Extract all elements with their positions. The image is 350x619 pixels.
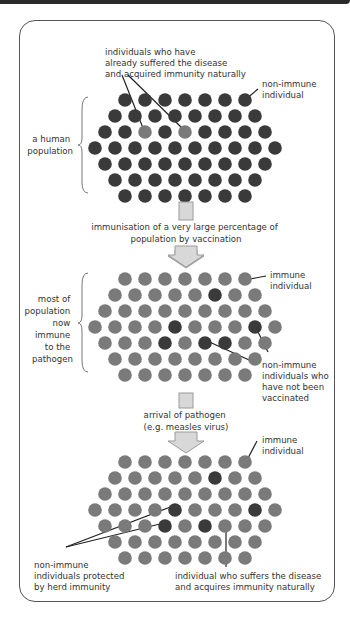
immune-individual-dot: [238, 304, 252, 318]
callout-immune: immune individual: [262, 435, 304, 456]
immune-individual-dot: [198, 455, 212, 469]
immune-individual-dot: [178, 272, 192, 286]
non-immune-individual-dot: [218, 125, 232, 139]
immune-individual-dot: [118, 519, 132, 533]
immune-individual-dot: [248, 352, 262, 366]
immune-individual-dot: [158, 487, 172, 501]
immune-individual-dot: [168, 288, 182, 302]
immune-individual-dot: [198, 551, 212, 565]
immune-individual-dot: [258, 304, 272, 318]
non-immune-individual-dot: [158, 189, 172, 203]
immune-individual-dot: [208, 352, 222, 366]
non-immune-individual-dot: [168, 173, 182, 187]
immune-individual-dot: [108, 503, 122, 517]
immune-individual-dot: [248, 288, 262, 302]
non-immune-individual-dot: [108, 173, 122, 187]
immune-individual-dot: [238, 455, 252, 469]
callout-suffers-disease: individual who suffers the disease and a…: [175, 571, 324, 592]
immune-individual-dot: [118, 272, 132, 286]
immune-individual-dot: [188, 288, 202, 302]
immune-individual-dot: [258, 336, 272, 350]
non-immune-individual-dot: [248, 109, 262, 123]
non-immune-individual-dot: [268, 141, 282, 155]
immune-individual-dot: [248, 535, 262, 549]
non-immune-individual-dot: [248, 320, 262, 334]
non-immune-individual-dot: [258, 157, 272, 171]
step-pathogen-text: arrival of pathogen (e.g. measles virus): [144, 410, 229, 432]
immune-individual-dot: [158, 368, 172, 382]
immune-individual-dot: [88, 503, 102, 517]
immune-individual-dot: [228, 503, 242, 517]
immune-individual-dot: [138, 125, 152, 139]
non-immune-individual-dot: [208, 471, 222, 485]
non-immune-individual-dot: [248, 141, 262, 155]
non-immune-individual-dot: [138, 157, 152, 171]
population-dots: [88, 455, 282, 565]
immune-individual-dot: [118, 336, 132, 350]
callout-unvaccinated: non-immune individuals who have not been…: [262, 360, 331, 403]
non-immune-individual-dot: [108, 109, 122, 123]
non-immune-individual-dot: [158, 519, 172, 533]
callout-non-immune: non-immune individual: [262, 79, 319, 100]
immune-individual-dot: [168, 535, 182, 549]
immune-individual-dot: [228, 320, 242, 334]
immune-individual-dot: [178, 368, 192, 382]
immune-individual-dot: [218, 487, 232, 501]
immune-individual-dot: [148, 503, 162, 517]
non-immune-individual-dot: [238, 93, 252, 107]
non-immune-individual-dot: [168, 141, 182, 155]
non-immune-individual-dot: [118, 93, 132, 107]
immune-individual-dot: [138, 336, 152, 350]
immune-individual-dot: [108, 352, 122, 366]
immune-individual-dot: [258, 519, 272, 533]
non-immune-individual-dot: [178, 189, 192, 203]
immune-individual-dot: [88, 320, 102, 334]
non-immune-individual-dot: [198, 125, 212, 139]
pointer-line: [250, 276, 266, 279]
non-immune-individual-dot: [118, 125, 132, 139]
immune-individual-dot: [128, 352, 142, 366]
immune-individual-dot: [138, 487, 152, 501]
brace: [78, 97, 88, 193]
immune-individual-dot: [138, 519, 152, 533]
non-immune-individual-dot: [218, 157, 232, 171]
immune-individual-dot: [118, 455, 132, 469]
immune-individual-dot: [158, 272, 172, 286]
non-immune-individual-dot: [178, 157, 192, 171]
immune-individual-dot: [118, 368, 132, 382]
immune-individual-dot: [98, 336, 112, 350]
non-immune-individual-dot: [88, 141, 102, 155]
non-immune-individual-dot: [188, 109, 202, 123]
immune-individual-dot: [138, 551, 152, 565]
non-immune-individual-dot: [238, 157, 252, 171]
non-immune-individual-dot: [158, 125, 172, 139]
panel-1-human-population: individuals who have already suffered th…: [27, 47, 319, 203]
immune-individual-dot: [258, 487, 272, 501]
immune-individual-dot: [218, 304, 232, 318]
immune-individual-dot: [238, 487, 252, 501]
non-immune-individual-dot: [208, 141, 222, 155]
immune-individual-dot: [238, 519, 252, 533]
immune-individual-dot: [178, 336, 192, 350]
non-immune-individual-dot: [128, 109, 142, 123]
callout-immune: immune individual: [270, 270, 312, 291]
immune-individual-dot: [108, 535, 122, 549]
immune-individual-dot: [118, 487, 132, 501]
immune-individual-dot: [238, 272, 252, 286]
non-immune-individual-dot: [188, 141, 202, 155]
immune-individual-dot: [98, 304, 112, 318]
immune-individual-dot: [138, 304, 152, 318]
non-immune-individual-dot: [198, 93, 212, 107]
immune-individual-dot: [138, 272, 152, 286]
non-immune-individual-dot: [98, 125, 112, 139]
non-immune-individual-dot: [208, 173, 222, 187]
immune-individual-dot: [158, 551, 172, 565]
immune-individual-dot: [188, 471, 202, 485]
immune-individual-dot: [128, 288, 142, 302]
non-immune-individual-dot: [158, 336, 172, 350]
non-immune-individual-dot: [228, 173, 242, 187]
non-immune-individual-dot: [168, 109, 182, 123]
herd-immunity-diagram: individuals who have already suffered th…: [0, 0, 350, 619]
non-immune-individual-dot: [118, 189, 132, 203]
non-immune-individual-dot: [218, 93, 232, 107]
